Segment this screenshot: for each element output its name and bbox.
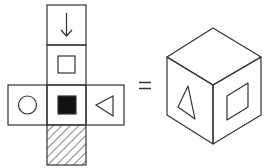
cube-triangle-icon xyxy=(178,86,195,119)
cube-net xyxy=(8,5,124,165)
hollow-square-icon xyxy=(58,56,75,73)
net-face-left xyxy=(8,85,47,125)
net-face-top xyxy=(47,5,86,45)
triangle-icon xyxy=(96,96,113,116)
net-face-bottom xyxy=(47,125,86,165)
net-face-center xyxy=(47,85,86,125)
filled-square-icon xyxy=(58,96,76,114)
cube-left-face xyxy=(167,57,213,144)
net-face-upper-middle xyxy=(47,45,86,85)
equals-sign xyxy=(139,83,151,89)
cube-right-face xyxy=(213,57,261,144)
down-arrow-icon xyxy=(61,13,72,36)
hollow-circle-icon xyxy=(19,96,37,114)
net-face-right xyxy=(86,85,124,125)
diagram: Cube net and folded cube xyxy=(0,0,267,168)
cube-top-face xyxy=(167,28,261,85)
cube-square-icon xyxy=(227,83,248,120)
folded-cube xyxy=(167,28,261,144)
